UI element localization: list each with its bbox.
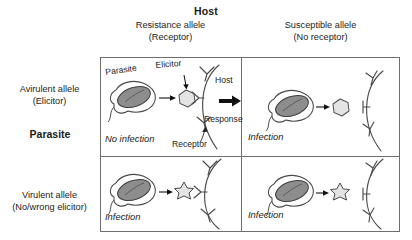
cell-virulent-resistance: Infection	[100, 157, 241, 232]
parasite-cell-icon	[108, 81, 155, 122]
elicitor-star-icon	[175, 182, 194, 199]
host-receptor-nonmatching-icon	[363, 71, 377, 136]
column-header-susceptible-line1: Susceptible allele	[241, 20, 400, 32]
diagram-canvas: Host Resistance allele (Receptor) Suscep…	[0, 0, 412, 240]
cell-avirulent-resistance: Parasite Elicitor Host Response Receptor…	[100, 57, 241, 156]
response-arrow-icon	[219, 96, 241, 107]
parasite-cell-icon	[108, 174, 155, 215]
secretion-arrow-icon	[159, 189, 173, 195]
elicitor-hexagon-icon	[333, 99, 349, 116]
row-header-virulent: Virulent allele (No/wrong elicitor)	[0, 190, 99, 213]
row-header-avirulent-line2: (Elicitor)	[0, 96, 99, 108]
outcome-infection: Infection	[105, 211, 140, 222]
column-header-resistance-line1: Resistance allele	[100, 20, 241, 32]
outcome-no-infection: No infection	[105, 133, 155, 144]
column-header-susceptible-line2: (No receptor)	[241, 32, 400, 44]
host-receptor-matching-icon	[194, 161, 217, 222]
elicitor-star-icon	[331, 183, 350, 200]
matrix-grid: Parasite Elicitor Host Response Receptor…	[100, 57, 400, 232]
host-cell-arc-icon	[205, 159, 221, 229]
row-header-virulent-line2: (No/wrong elicitor)	[0, 202, 99, 214]
label-response: Response	[204, 114, 243, 124]
cell-virulent-susceptible: Infection	[242, 157, 400, 232]
column-header-susceptible: Susceptible allele (No receptor)	[241, 20, 400, 43]
row-header-avirulent: Avirulent allele (Elicitor)	[0, 84, 99, 107]
secretion-arrow-icon	[316, 190, 329, 196]
label-host: Host	[215, 75, 233, 85]
column-header-resistance-line2: (Receptor)	[100, 32, 241, 44]
row-header-virulent-line1: Virulent allele	[0, 190, 99, 202]
elicitor-pointer-arrow-icon	[183, 75, 188, 90]
host-cell-arc-icon	[367, 71, 383, 151]
outcome-infection: Infection	[248, 209, 283, 220]
label-receptor: Receptor	[172, 139, 207, 149]
parasite-cell-icon	[266, 90, 313, 131]
parasite-axis-title: Parasite	[2, 128, 98, 140]
secretion-arrow-icon	[316, 104, 330, 110]
host-receptor-nonmatching-icon	[363, 161, 377, 222]
column-header-resistance: Resistance allele (Receptor)	[100, 20, 241, 43]
cell-avirulent-susceptible: Infection	[242, 57, 400, 156]
row-header-avirulent-line1: Avirulent allele	[0, 84, 99, 96]
secretion-arrow-icon	[159, 95, 176, 101]
host-axis-title: Host	[0, 5, 412, 17]
outcome-infection: Infection	[248, 131, 283, 142]
